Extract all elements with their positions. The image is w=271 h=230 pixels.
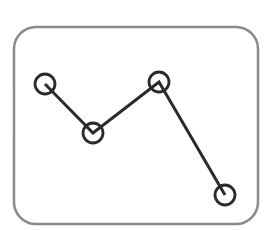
line-chart-icon bbox=[0, 0, 271, 230]
icon-frame bbox=[14, 27, 258, 224]
